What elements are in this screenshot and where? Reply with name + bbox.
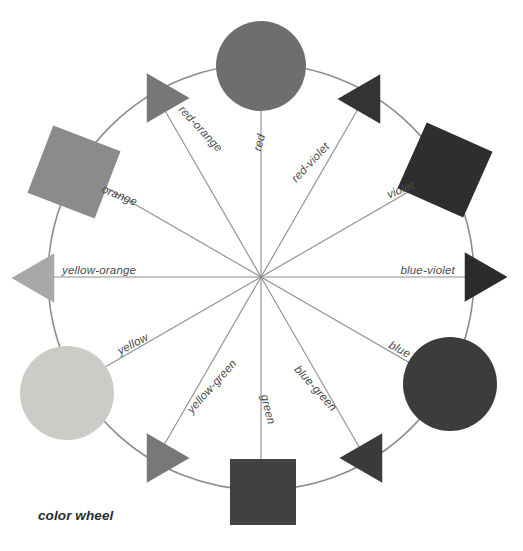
spoke-line-yellow-green [155,277,262,461]
spoke-label-yellow-orange: yellow-orange [61,264,136,276]
figure-caption: color wheel [38,508,113,523]
spoke-label-green: green [259,393,278,425]
spoke-label-red: red [251,132,267,152]
swatch-yellow [20,346,114,440]
swatch-red [216,21,306,111]
spoke-label-red-orange: red-orange [177,103,226,154]
spoke-line-blue-green [261,277,368,461]
spoke-label-blue-green: blue-green [292,363,339,413]
swatch-yellow-orange [11,253,54,302]
swatch-violet [397,122,492,217]
swatch-blue [403,337,497,431]
spoke-line-red-orange [155,93,262,277]
color-wheel-diagram: redred-violetvioletblue-violetblueblue-g… [0,0,523,551]
spoke-label-orange: orange [100,183,139,208]
swatch-blue-violet [465,252,508,301]
spoke-label-red-violet: red-violet [289,140,332,185]
spoke-lines-group [48,64,474,490]
color-wheel-figure: redred-violetvioletblue-violetblueblue-g… [0,0,523,551]
spoke-label-yellow: yellow [114,330,150,357]
spoke-label-yellow-green: yellow-green [184,357,239,416]
swatch-green [230,459,296,525]
spoke-line-red-violet [261,93,368,277]
swatch-orange [27,125,120,218]
swatch-red-orange [125,73,189,135]
spoke-label-blue-violet: blue-violet [400,264,455,276]
